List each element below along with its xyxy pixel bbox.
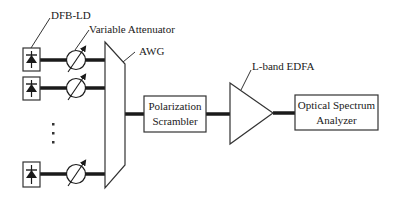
leader-line xyxy=(123,52,135,62)
optical-spectrum-analyzer: Optical Spectrum Analyzer xyxy=(295,95,378,130)
awg-block xyxy=(105,42,125,188)
variable-attenuator-2 xyxy=(67,75,86,100)
amplifier-triangle-icon xyxy=(230,83,273,144)
laser-diode-2 xyxy=(23,77,40,100)
osa-label-line1: Optical Spectrum xyxy=(298,99,376,111)
setup-diagram: Polarization Scrambler Optical Spectrum … xyxy=(0,0,401,197)
leader-line xyxy=(31,18,50,48)
scrambler-label-line1: Polarization xyxy=(148,100,202,112)
callout-edfa: L-band EDFA xyxy=(241,60,314,90)
variable-attenuator-1 xyxy=(67,47,86,72)
callout-awg: AWG xyxy=(123,45,164,62)
osa-label-line2: Analyzer xyxy=(316,114,357,126)
leader-line xyxy=(75,30,89,50)
edfa-label: L-band EDFA xyxy=(252,60,314,72)
dfb-ld-label: DFB-LD xyxy=(51,9,91,21)
variable-attenuator-n xyxy=(67,161,86,186)
leader-line xyxy=(241,70,251,90)
laser-diode-n xyxy=(23,162,40,187)
awg-label: AWG xyxy=(139,45,164,57)
laser-diode-1 xyxy=(23,48,40,71)
scrambler-label-line2: Scrambler xyxy=(152,115,198,127)
polarization-scrambler: Polarization Scrambler xyxy=(144,96,206,132)
variable-attenuator-label: Variable Attenuator xyxy=(89,23,175,35)
ellipsis-dots xyxy=(52,123,55,144)
callout-dfb-ld: DFB-LD xyxy=(31,9,91,48)
